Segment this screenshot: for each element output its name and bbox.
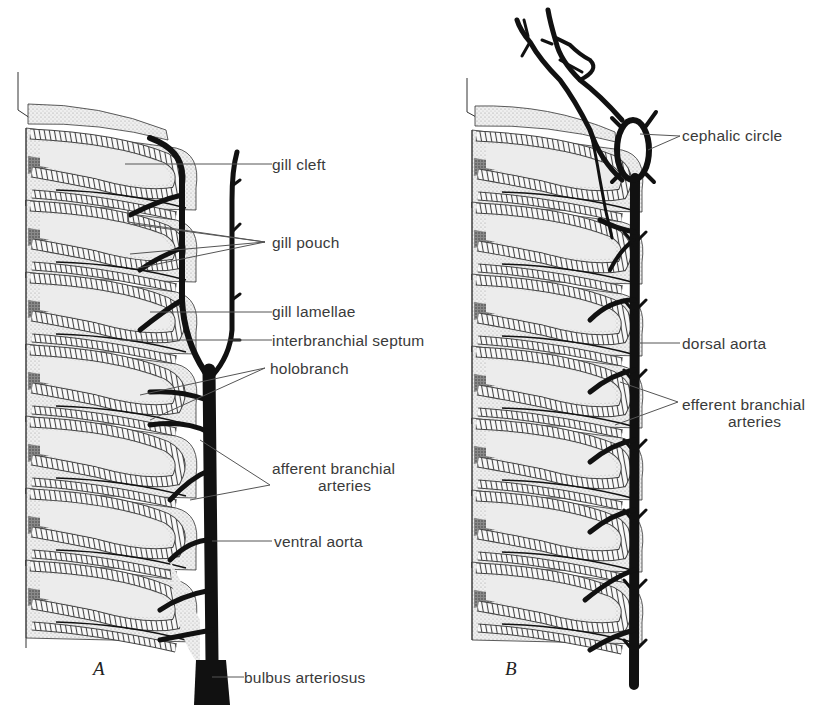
label-afferent-line1: afferent branchial xyxy=(272,460,395,477)
label-gill-lamellae: gill lamellae xyxy=(272,303,356,320)
label-interbranchial-septum: interbranchial septum xyxy=(272,332,424,349)
panel-letter-b: B xyxy=(505,658,517,680)
label-cephalic-circle: cephalic circle xyxy=(682,127,782,144)
label-efferent-line2: arteries xyxy=(682,413,805,430)
label-ventral-aorta: ventral aorta xyxy=(274,533,363,550)
label-bulbus-arteriosus: bulbus arteriosus xyxy=(244,669,365,686)
bulbus-arteriosus-shape xyxy=(194,660,230,705)
label-efferent-line1: efferent branchial xyxy=(682,396,805,413)
label-afferent-line2: arteries xyxy=(272,477,395,494)
label-holobranch: holobranch xyxy=(270,360,349,377)
label-dorsal-aorta: dorsal aorta xyxy=(682,335,766,352)
panel-b-drawing xyxy=(467,10,680,685)
gill-diagram-canvas xyxy=(0,0,837,720)
label-efferent-branchial-arteries: efferent branchial arteries xyxy=(682,396,805,430)
panel-a-drawing xyxy=(18,72,272,705)
panel-letter-a: A xyxy=(93,658,105,680)
label-gill-pouch: gill pouch xyxy=(272,234,340,251)
label-gill-cleft: gill cleft xyxy=(272,156,326,173)
label-afferent-branchial-arteries: afferent branchial arteries xyxy=(272,460,395,494)
